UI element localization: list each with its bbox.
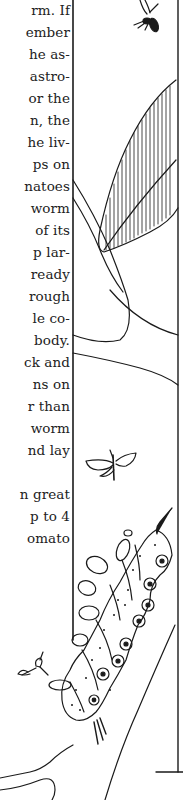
wasp-icon — [134, 0, 160, 33]
leaf-icon — [99, 80, 178, 252]
caterpillar-icon — [49, 508, 172, 744]
stem — [0, 625, 175, 800]
moth-icon — [86, 450, 136, 480]
frame — [73, 0, 183, 772]
illustration — [0, 0, 183, 800]
small-wasp-icon — [18, 652, 48, 675]
